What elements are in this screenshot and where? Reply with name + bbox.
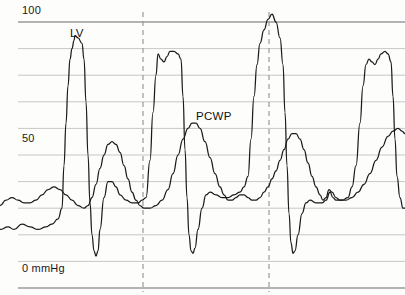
trace-annotation-lv: LV xyxy=(70,27,84,39)
y-axis-label-50: 50 xyxy=(22,132,35,144)
trace-annotation-pcwp: PCWP xyxy=(196,110,232,122)
chart-background xyxy=(0,0,405,295)
hemodynamic-pressure-chart: 100 50 0 mmHg LV PCWP xyxy=(0,0,405,295)
y-axis-label-zero: 0 mmHg xyxy=(22,262,65,274)
y-axis-label-100: 100 xyxy=(22,4,41,16)
chart-plot-area xyxy=(0,0,405,295)
